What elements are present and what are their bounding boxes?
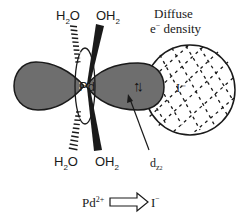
ligand-top-left: H2O [56,9,80,22]
annotation-line-2: e− density [150,22,201,35]
ligand-text: OH [95,154,115,169]
transfer-donor: Pd2+ [82,196,104,209]
ligand-text: O [68,154,78,169]
dz2-lobe-right [86,63,164,110]
orbital-subscript: z2 [156,163,163,172]
ligand-text: O [70,8,80,23]
orbital-label: dz2 [150,157,163,169]
donor-charge: 2+ [96,195,105,204]
annotation-line-1: Diffuse [154,7,193,20]
orbital-sub-exponent: 2 [160,165,163,171]
ligand-bottom-right: OH2 [95,155,119,168]
donor-text: Pd [82,195,96,210]
electron-pair-icon: ↑↓ [133,78,140,93]
ligand-text: H [54,154,63,169]
ligand-subscript: 2 [115,163,119,172]
acceptor-charge: ⁻ [155,195,160,205]
ligand-text: OH [96,8,116,23]
ligand-bottom-left: H2O [54,155,78,168]
ligand-subscript: 2 [116,17,120,26]
anion-label: I⁻ [176,82,186,94]
orbital-diagram: H2O OH2 H2O OH2 Pd ↑↓ I⁻ Diffuse e− dens… [0,0,236,218]
ligand-top-right: OH2 [96,9,120,22]
transfer-arrow-icon [110,193,148,211]
metal-label: Pd [79,80,95,93]
dz2-lobe-left [14,62,84,110]
transfer-acceptor: I⁻ [151,196,160,209]
ligand-text: H [56,8,65,23]
annotation-text: density [160,21,201,36]
